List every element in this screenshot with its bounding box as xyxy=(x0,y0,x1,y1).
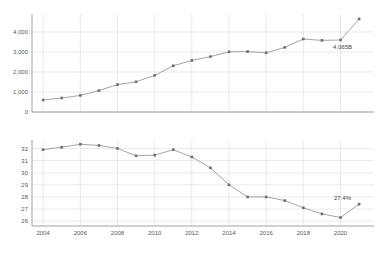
x-axis-tick-label: 2004 xyxy=(36,230,50,236)
data-point-marker xyxy=(79,143,82,146)
data-point-marker xyxy=(209,167,212,170)
data-point-marker xyxy=(135,81,138,84)
x-axis-tick-label: 2010 xyxy=(148,230,162,236)
data-point-marker xyxy=(321,213,324,216)
x-axis-tick-label: 2016 xyxy=(260,230,274,236)
data-point-marker xyxy=(339,216,342,219)
data-point-marker xyxy=(153,74,156,77)
data-point-marker xyxy=(116,83,119,86)
data-point-marker xyxy=(172,148,175,151)
data-point-marker xyxy=(191,59,194,62)
y-axis-tick-label: 31 xyxy=(21,158,28,164)
chart-page: 01,0002,0003,0004,0004,065B 262728293031… xyxy=(0,0,381,255)
y-axis-tick-label: 29 xyxy=(21,182,28,188)
data-point-marker xyxy=(153,154,156,157)
data-point-marker xyxy=(283,46,286,49)
data-point-marker xyxy=(265,196,268,199)
data-value-label: 4,065B xyxy=(333,44,352,50)
data-point-marker xyxy=(135,154,138,157)
data-point-marker xyxy=(98,89,101,92)
x-axis-tick-label: 2012 xyxy=(185,230,199,236)
y-axis-tick-label: 27 xyxy=(21,206,28,212)
y-axis-tick-label: 1,000 xyxy=(13,89,29,95)
data-point-marker xyxy=(172,65,175,68)
data-point-marker xyxy=(283,199,286,202)
data-point-marker xyxy=(246,196,249,199)
data-point-marker xyxy=(60,97,63,100)
y-axis-tick-label: 0 xyxy=(25,109,29,115)
x-axis-tick-label: 2006 xyxy=(74,230,88,236)
data-point-marker xyxy=(358,203,361,206)
data-point-marker xyxy=(42,99,45,102)
x-axis-tick-label: 2020 xyxy=(334,230,348,236)
y-axis-tick-label: 2,000 xyxy=(13,69,29,75)
y-axis-tick-label: 26 xyxy=(21,218,28,224)
x-axis-tick-label: 2008 xyxy=(111,230,125,236)
data-point-marker xyxy=(246,50,249,53)
data-value-label: 27.4% xyxy=(334,195,352,201)
data-point-marker xyxy=(228,184,231,187)
x-axis-tick-label: 2014 xyxy=(222,230,236,236)
data-point-marker xyxy=(116,147,119,150)
data-point-marker xyxy=(191,156,194,159)
data-point-marker xyxy=(79,94,82,97)
y-axis-tick-label: 30 xyxy=(21,170,28,176)
series-line xyxy=(43,19,359,100)
data-point-marker xyxy=(60,146,63,149)
data-point-marker xyxy=(209,55,212,58)
line-chart-bottom: 2627282930313220042006200820102012201420… xyxy=(0,128,381,255)
line-chart-top: 01,0002,0003,0004,0004,065B xyxy=(0,0,381,128)
data-point-marker xyxy=(339,39,342,42)
chart-panel-top: 01,0002,0003,0004,0004,065B xyxy=(0,0,381,128)
data-point-marker xyxy=(228,51,231,54)
data-point-marker xyxy=(302,38,305,41)
data-point-marker xyxy=(265,52,268,55)
y-axis-tick-label: 28 xyxy=(21,194,28,200)
data-point-marker xyxy=(302,207,305,210)
y-axis-tick-label: 4,000 xyxy=(13,29,29,35)
y-axis-tick-label: 32 xyxy=(21,146,28,152)
x-axis-tick-label: 2018 xyxy=(297,230,311,236)
y-axis-tick-label: 3,000 xyxy=(13,49,29,55)
chart-panel-bottom: 2627282930313220042006200820102012201420… xyxy=(0,128,381,255)
data-point-marker xyxy=(358,18,361,21)
data-point-marker xyxy=(321,39,324,42)
data-point-marker xyxy=(98,144,101,147)
series-line xyxy=(43,144,359,217)
data-point-marker xyxy=(42,148,45,151)
